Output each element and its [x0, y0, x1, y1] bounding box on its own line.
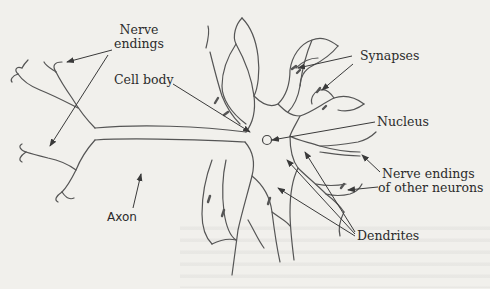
neuron-diagram: Nerve endings Cell body Synapses Nucleus… [0, 0, 490, 289]
arrow-nucleus [272, 122, 375, 140]
label-cell-body: Cell body [114, 73, 174, 87]
label-nerve-endings: Nerve endings [114, 23, 164, 51]
label-dendrites: Dendrites [357, 229, 419, 243]
arrow-dendrites-2 [287, 160, 355, 234]
nucleus-circle [263, 136, 272, 145]
label-nerve-endings-other-neurons: Nerve endings of other neurons [378, 167, 484, 195]
label-arrows [50, 50, 380, 236]
neuron-drawing [0, 0, 490, 289]
arrow-axon [133, 174, 141, 208]
arrow-other-neurons-2 [348, 187, 378, 190]
label-nerve-endings-line1: Nerve [114, 23, 164, 37]
label-nerve-endings-line2: endings [114, 37, 164, 51]
label-nucleus: Nucleus [377, 115, 429, 129]
label-axon: Axon [107, 210, 137, 224]
arrow-synapses-2 [322, 64, 353, 90]
label-nerve-endings-other-line1: Nerve endings [378, 167, 484, 181]
arrow-cell-body [173, 84, 250, 132]
label-nerve-endings-other-line2: of other neurons [378, 181, 484, 195]
label-synapses: Synapses [360, 49, 419, 63]
neuron-outline [11, 18, 376, 275]
arrow-nerve-endings-bottom [50, 55, 108, 146]
